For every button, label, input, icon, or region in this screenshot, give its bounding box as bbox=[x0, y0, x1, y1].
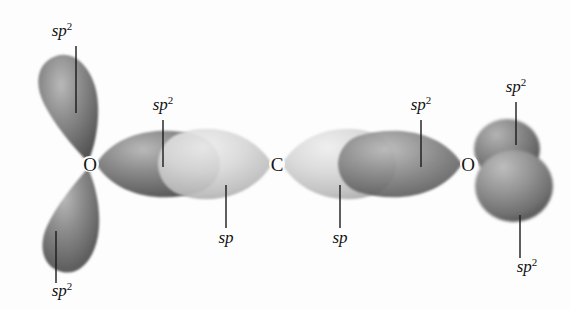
diagram-canvas: O C O sp2 sp2 sp sp sp2 sp2 sp2 sp2 bbox=[0, 0, 570, 310]
orbital-label-sp-right: sp bbox=[332, 228, 347, 247]
orbital-label-sp-left: sp bbox=[218, 228, 233, 247]
orbital-label-base: sp bbox=[218, 228, 233, 247]
lobe-c-left-bond-sp bbox=[158, 129, 272, 199]
orbital-label-superscript: 2 bbox=[426, 94, 432, 106]
orbital-label-base: sp bbox=[52, 281, 67, 300]
lobe-o-right-bond-sp2 bbox=[338, 131, 462, 198]
orbital-label-sp2-lower-right: sp2 bbox=[517, 256, 538, 276]
orbital-label-base: sp bbox=[506, 77, 521, 96]
orbital-label-superscript: 2 bbox=[532, 256, 538, 268]
atom-label-c-center: C bbox=[271, 154, 284, 175]
orbital-label-base: sp bbox=[332, 228, 347, 247]
lobe-o-right-lower-sp2 bbox=[475, 150, 553, 222]
atom-label-o-left: O bbox=[83, 154, 97, 175]
orbital-label-base: sp bbox=[153, 95, 168, 114]
orbital-label-sp2-upper-right: sp2 bbox=[506, 76, 527, 96]
orbital-label-base: sp bbox=[411, 95, 426, 114]
orbital-label-superscript: 2 bbox=[67, 280, 73, 292]
lobe-o-left-upper-sp2 bbox=[38, 55, 98, 162]
orbital-label-superscript: 2 bbox=[521, 76, 527, 88]
orbital-label-sp2-lower-left: sp2 bbox=[52, 280, 73, 300]
orbital-label-base: sp bbox=[52, 21, 67, 40]
orbital-label-base: sp bbox=[517, 257, 532, 276]
lobe-o-left-lower-sp2 bbox=[42, 168, 99, 273]
orbital-label-sp2-o-right-bond: sp2 bbox=[411, 94, 432, 114]
orbital-diagram-figure: O C O sp2 sp2 sp sp sp2 sp2 sp2 sp2 bbox=[0, 0, 570, 310]
orbital-label-superscript: 2 bbox=[67, 20, 73, 32]
atom-label-o-right: O bbox=[461, 154, 475, 175]
orbital-label-sp2-upper-left: sp2 bbox=[52, 20, 73, 40]
orbital-label-sp2-o-left-bond: sp2 bbox=[153, 94, 174, 114]
orbital-label-superscript: 2 bbox=[168, 94, 174, 106]
